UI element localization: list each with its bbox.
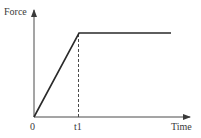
chart-canvas (0, 0, 201, 138)
force-series-line (34, 33, 171, 117)
x-tick-0: 0 (30, 122, 35, 132)
x-axis-label: Time (171, 122, 192, 132)
x-tick-t1: t1 (74, 122, 82, 132)
y-axis-label: Force (4, 7, 27, 17)
force-time-chart: Force Time 0 t1 (0, 0, 201, 138)
